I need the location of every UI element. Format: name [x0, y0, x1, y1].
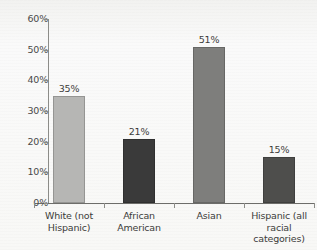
category-label-line: Asian — [174, 210, 244, 222]
category-label-line: White (not — [34, 210, 104, 222]
x-axis-category-labels: White (notHispanic)AfricanAmericanAsianH… — [0, 0, 317, 250]
category-label-line: Hispanic (all — [244, 210, 314, 222]
x-axis-category-label: Asian — [174, 210, 244, 222]
x-axis-category-label: AfricanAmerican — [104, 210, 174, 233]
category-label-line: racial categories) — [244, 222, 314, 245]
category-label-line: American — [104, 222, 174, 234]
category-label-line: Hispanic) — [34, 222, 104, 234]
bar-chart: 0%10%20%30%40%50%60% 35%21%51%15% White … — [0, 0, 317, 250]
x-axis-category-label: Hispanic (allracial categories) — [244, 210, 314, 245]
category-label-line: African — [104, 210, 174, 222]
x-axis-category-label: White (notHispanic) — [34, 210, 104, 233]
